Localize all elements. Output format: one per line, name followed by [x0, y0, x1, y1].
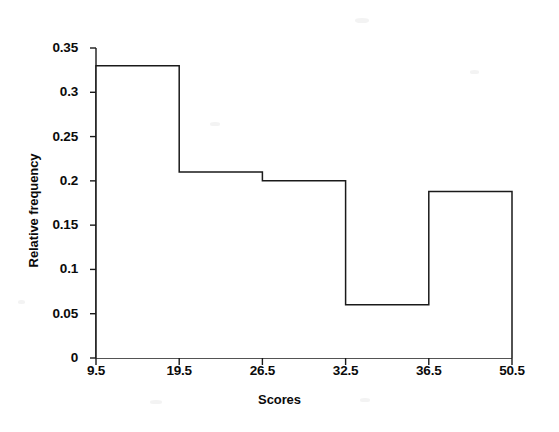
x-axis-tick-label: 19.5 — [166, 364, 191, 378]
x-axis-tick-label: 36.5 — [416, 364, 441, 378]
x-axis-tick-labels: 9.519.526.532.536.550.5 — [0, 0, 559, 432]
x-axis-tick-label: 50.5 — [499, 364, 524, 378]
x-axis-tick-label: 26.5 — [250, 364, 275, 378]
histogram-figure: 00.050.10.150.20.250.30.35 9.519.526.532… — [0, 0, 559, 432]
y-axis-title: Relative frequency — [26, 116, 41, 306]
x-axis-title: Scores — [0, 392, 559, 407]
x-axis-tick-label: 9.5 — [87, 364, 105, 378]
x-axis-tick-label: 32.5 — [333, 364, 358, 378]
